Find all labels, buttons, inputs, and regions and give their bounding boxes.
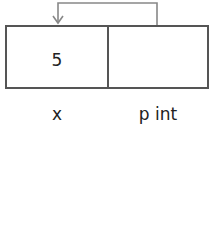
cell-p-int-label: p int [107, 104, 209, 124]
cell-x-label: x [5, 104, 109, 124]
